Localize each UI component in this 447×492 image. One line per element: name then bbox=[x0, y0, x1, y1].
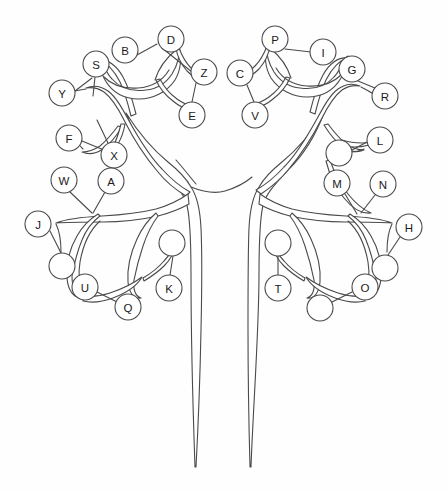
node-circle-A[interactable]: A bbox=[98, 168, 124, 194]
node-outline[interactable] bbox=[372, 255, 398, 281]
node-outline[interactable] bbox=[56, 125, 82, 151]
node-circle-empty[interactable] bbox=[372, 255, 398, 281]
node-outline[interactable] bbox=[262, 26, 288, 52]
node-layer: YSBDZEFXWAJUQKCVPIGRLMNHOT bbox=[25, 26, 422, 321]
twig-A bbox=[93, 192, 105, 213]
node-circle-D[interactable]: D bbox=[158, 26, 184, 52]
node-circle-R[interactable]: R bbox=[372, 83, 398, 109]
node-circle-U[interactable]: U bbox=[72, 274, 98, 300]
node-outline[interactable] bbox=[242, 102, 268, 128]
node-outline[interactable] bbox=[115, 294, 141, 320]
node-outline[interactable] bbox=[370, 171, 396, 197]
node-outline[interactable] bbox=[49, 80, 75, 106]
node-outline[interactable] bbox=[265, 230, 291, 256]
node-circle-E[interactable]: E bbox=[179, 102, 205, 128]
twig-B bbox=[137, 44, 157, 55]
node-outline[interactable] bbox=[372, 83, 398, 109]
node-circle-empty[interactable] bbox=[265, 230, 291, 256]
node-circle-O[interactable]: O bbox=[352, 274, 378, 300]
twig-P bbox=[285, 49, 311, 52]
node-circle-V[interactable]: V bbox=[242, 102, 268, 128]
node-circle-X[interactable]: X bbox=[101, 142, 127, 168]
twig-H bbox=[388, 237, 400, 255]
node-circle-F[interactable]: F bbox=[56, 125, 82, 151]
right-lower-h-connector bbox=[387, 224, 392, 252]
twig-C bbox=[247, 85, 254, 102]
node-outline[interactable] bbox=[326, 140, 352, 166]
node-outline[interactable] bbox=[112, 37, 138, 63]
node-circle-C[interactable]: C bbox=[227, 60, 253, 86]
node-outline[interactable] bbox=[101, 142, 127, 168]
tree-figure: YSBDZEFXWAJUQKCVPIGRLMNHOT bbox=[0, 0, 447, 492]
node-outline[interactable] bbox=[307, 295, 333, 321]
node-circle-I[interactable]: I bbox=[310, 39, 336, 65]
node-outline[interactable] bbox=[324, 170, 350, 196]
node-circle-K[interactable]: K bbox=[156, 275, 182, 301]
node-outline[interactable] bbox=[367, 127, 393, 153]
node-circle-G[interactable]: G bbox=[339, 56, 365, 82]
node-circle-J[interactable]: J bbox=[25, 211, 51, 237]
node-circle-S[interactable]: S bbox=[83, 51, 109, 77]
node-circle-Q[interactable]: Q bbox=[115, 294, 141, 320]
node-outline[interactable] bbox=[51, 167, 77, 193]
node-outline[interactable] bbox=[227, 60, 253, 86]
node-outline[interactable] bbox=[98, 168, 124, 194]
node-outline[interactable] bbox=[159, 230, 185, 256]
node-outline[interactable] bbox=[156, 275, 182, 301]
node-circle-empty[interactable] bbox=[307, 295, 333, 321]
node-circle-empty[interactable] bbox=[49, 253, 75, 279]
tree-diagram-canvas: YSBDZEFXWAJUQKCVPIGRLMNHOT bbox=[0, 0, 447, 492]
twig-X bbox=[97, 120, 108, 143]
node-circle-L[interactable]: L bbox=[367, 127, 393, 153]
node-circle-W[interactable]: W bbox=[51, 167, 77, 193]
node-outline[interactable] bbox=[25, 211, 51, 237]
trunk-fork-notch bbox=[191, 177, 252, 192]
node-outline[interactable] bbox=[179, 102, 205, 128]
node-circle-empty[interactable] bbox=[326, 140, 352, 166]
node-circle-B[interactable]: B bbox=[112, 37, 138, 63]
node-outline[interactable] bbox=[339, 56, 365, 82]
node-outline[interactable] bbox=[396, 214, 422, 240]
node-outline[interactable] bbox=[72, 274, 98, 300]
node-outline[interactable] bbox=[191, 59, 217, 85]
node-outline[interactable] bbox=[158, 26, 184, 52]
node-outline[interactable] bbox=[265, 275, 291, 301]
node-circle-Z[interactable]: Z bbox=[191, 59, 217, 85]
node-outline[interactable] bbox=[83, 51, 109, 77]
node-circle-M[interactable]: M bbox=[324, 170, 350, 196]
node-circle-Y[interactable]: Y bbox=[49, 80, 75, 106]
node-circle-H[interactable]: H bbox=[396, 214, 422, 240]
twig-Z1 bbox=[192, 83, 196, 102]
twig-N bbox=[361, 195, 375, 213]
twig-W bbox=[70, 192, 92, 213]
node-outline[interactable] bbox=[310, 39, 336, 65]
node-circle-N[interactable]: N bbox=[370, 171, 396, 197]
node-outline[interactable] bbox=[49, 253, 75, 279]
node-circle-P[interactable]: P bbox=[262, 26, 288, 52]
node-outline[interactable] bbox=[352, 274, 378, 300]
node-circle-T[interactable]: T bbox=[265, 275, 291, 301]
node-circle-empty[interactable] bbox=[159, 230, 185, 256]
